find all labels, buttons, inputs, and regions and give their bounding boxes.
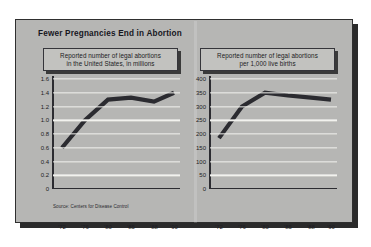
x-axis-tick-label: '80 [104,224,112,230]
y-axis-labels-left: 1.61.41.21.00.80.60.40.20 [32,79,50,189]
y-axis-tick-label: 300 [196,104,206,110]
gridline [53,120,180,121]
plot-grid-right [209,79,337,189]
y-axis-tick-label: 250 [196,117,206,123]
gridline [53,147,180,148]
page-title: Fewer Pregnancies End in Abortion [38,29,182,38]
y-axis-tick-label: 0 [203,186,206,192]
gridline [53,92,180,93]
gridline [210,78,337,79]
y-axis-tick-label: 50 [199,172,206,178]
x-axis-tick-label: '72 [215,224,223,230]
chart-left-caption: Reported number of legal abortions in th… [32,48,185,75]
y-axis-tick-label: 200 [196,131,206,137]
gridline [53,133,180,134]
y-axis-tick-label: 400 [196,76,206,82]
chart-panel: Fewer Pregnancies End in Abortion Report… [15,19,353,223]
y-axis-tick-label: 100 [196,159,206,165]
x-axis-tick-label: '88 [307,224,315,230]
x-axis-tick-label: '80 [261,224,269,230]
x-axis-tick-label: '88 [150,224,158,230]
x-axis-tick-label: '90 [327,224,335,230]
y-axis-tick-label: 350 [196,90,206,96]
x-axis-tick-label: '85 [127,224,135,230]
x-axis-labels-left: '72'76'80'85'88'90 [52,224,180,236]
gridline [53,106,180,107]
y-axis-tick-label: 1.4 [41,90,49,96]
plot-area-left: 1.61.41.21.00.80.60.40.20 '72'76'80'85'8… [32,79,185,189]
y-axis-tick-label: 0.8 [41,131,49,137]
x-axis-tick-label: '72 [58,224,66,230]
caption-line-2: per 1,000 live births [239,60,295,67]
plot-grid-left [52,79,180,189]
chart-right: Reported number of legal abortions per 1… [189,48,342,216]
plot-area-right: 400350300250200150100500 '72'76'80'85'88… [189,79,342,189]
x-axis-tick-label: '85 [284,224,292,230]
gridline [210,161,337,162]
gridline [210,106,337,107]
gridline [53,161,180,162]
chart-right-caption: Reported number of legal abortions per 1… [189,48,342,75]
gridline [53,78,180,79]
y-axis-tick-label: 150 [196,145,206,151]
gridline [210,147,337,148]
x-axis-tick-label: '76 [238,224,246,230]
caption-plaque: Reported number of legal abortions per 1… [200,48,335,71]
gridline [210,175,337,176]
y-axis-tick-label: 1.6 [41,76,49,82]
x-axis-tick-label: '90 [170,224,178,230]
gridline [210,120,337,121]
y-axis-tick-label: 0 [46,186,49,192]
gridline [210,92,337,93]
y-axis-tick-label: 0.6 [41,145,49,151]
y-axis-tick-label: 1.2 [41,104,49,110]
caption-line-1: Reported number of legal abortions [60,52,161,59]
y-axis-tick-label: 0.2 [41,172,49,178]
chart-left: Reported number of legal abortions in th… [32,48,185,216]
y-axis-tick-label: 0.4 [41,159,49,165]
x-axis-tick-label: '76 [81,224,89,230]
x-axis-labels-right: '72'76'80'85'88'90 [209,224,337,236]
gridline [53,175,180,176]
caption-line-2: in the United States, in millions [66,60,154,67]
series-polyline [219,93,331,138]
y-axis-tick-label: 1.0 [41,117,49,123]
caption-line-1: Reported number of legal abortions [217,52,318,59]
chart-page: Fewer Pregnancies End in Abortion Report… [0,0,371,247]
y-axis-labels-right: 400350300250200150100500 [189,79,207,189]
gridline [210,133,337,134]
source-note: Source: Centers for Disease Control [53,204,129,209]
caption-plaque: Reported number of legal abortions in th… [43,48,178,71]
